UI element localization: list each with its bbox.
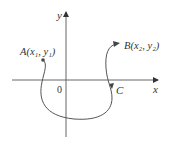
x-axis-label: x — [152, 83, 158, 95]
endpoint-b-arrow-icon — [113, 41, 120, 47]
curve-c-label: C — [116, 84, 124, 96]
curve-diagram: y x 0 A(x₁, y₁) B(x₂, y₂) C — [0, 0, 178, 148]
origin-label: 0 — [57, 84, 62, 95]
point-b-label: B(x₂, y₂) — [124, 40, 160, 52]
point-a-dot — [41, 58, 45, 62]
point-a-label: A(x₁, y₁) — [19, 46, 56, 58]
y-axis-label: y — [56, 9, 62, 21]
